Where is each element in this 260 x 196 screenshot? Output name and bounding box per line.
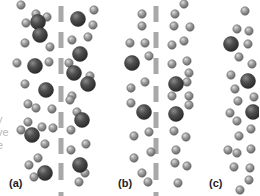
small-particle — [13, 59, 21, 67]
small-particle — [17, 126, 25, 134]
large-particle — [169, 77, 184, 92]
small-particle — [236, 186, 244, 194]
small-particle — [233, 117, 241, 125]
small-particle — [48, 105, 56, 113]
small-particle — [21, 80, 29, 88]
small-particle — [144, 178, 152, 186]
small-particle — [180, 0, 188, 8]
small-particle — [174, 179, 182, 187]
small-particle — [186, 23, 194, 31]
membrane-segment — [154, 58, 159, 74]
small-particle — [227, 71, 235, 79]
small-particle — [24, 100, 32, 108]
small-particle — [245, 176, 253, 184]
small-particle — [49, 124, 57, 132]
small-particle — [248, 60, 256, 68]
clipped-side-text: y ve e — [0, 113, 9, 151]
large-particle — [31, 15, 46, 30]
small-particle — [185, 101, 193, 109]
large-particle — [169, 107, 184, 122]
small-particle — [67, 126, 75, 134]
small-particle — [68, 36, 76, 44]
small-particle — [226, 109, 234, 117]
large-particle — [75, 113, 90, 128]
small-particle — [147, 148, 155, 156]
small-particle — [235, 132, 243, 140]
large-particle — [73, 158, 88, 173]
small-particle — [183, 78, 191, 86]
clipped-text-line-2: ve — [0, 126, 9, 138]
small-particle — [171, 159, 179, 167]
large-particle — [125, 56, 140, 71]
small-particle — [22, 19, 30, 27]
small-particle — [67, 146, 75, 154]
small-particle — [138, 22, 146, 30]
small-particle — [89, 21, 97, 29]
small-particle — [66, 96, 74, 104]
large-particle — [246, 105, 260, 120]
large-particle — [25, 128, 40, 143]
membrane-segment — [59, 86, 64, 102]
large-particle — [38, 166, 53, 181]
small-particle — [17, 1, 25, 9]
small-particle — [46, 43, 54, 51]
particles-layer — [13, 0, 259, 194]
small-particle — [224, 146, 232, 154]
small-particle — [170, 22, 178, 30]
panel-label-a: (a) — [9, 177, 23, 189]
small-particle — [233, 25, 241, 33]
large-particle — [33, 28, 48, 43]
small-particle — [21, 39, 29, 47]
large-particle — [67, 66, 82, 81]
small-particle — [84, 33, 92, 41]
membrane-segment — [154, 6, 159, 22]
panel-label-b: (b) — [118, 177, 132, 189]
membrane-segment — [154, 86, 159, 102]
small-particle — [246, 164, 254, 172]
small-particle — [145, 52, 153, 60]
small-particle — [141, 39, 149, 47]
membrane-segment — [59, 192, 64, 196]
small-particle — [250, 93, 258, 101]
small-particle — [145, 128, 153, 136]
membrane-segment — [154, 112, 159, 128]
membrane-segment — [59, 163, 64, 180]
small-particle — [247, 125, 255, 133]
small-particle — [231, 85, 239, 93]
small-particle — [24, 118, 32, 126]
small-particle — [170, 127, 178, 135]
small-particle — [130, 132, 138, 140]
small-particle — [45, 58, 53, 66]
small-particle — [182, 133, 190, 141]
large-particle — [224, 37, 239, 52]
small-particle — [138, 10, 146, 18]
membrane-segment — [154, 163, 159, 180]
small-particle — [185, 69, 193, 77]
membrane-segment — [154, 32, 159, 48]
small-particle — [247, 145, 255, 153]
panel-label-c: (c) — [209, 177, 223, 189]
small-particle — [141, 78, 149, 86]
membrane-b — [154, 6, 159, 196]
small-particle — [130, 154, 138, 162]
membrane-diagram-figure: y ve e (a) (b) (c) — [0, 0, 259, 196]
large-particle — [71, 12, 86, 27]
small-particle — [233, 149, 241, 157]
small-particle — [244, 40, 252, 48]
large-particle — [28, 59, 43, 74]
small-particle — [168, 92, 176, 100]
small-particle — [75, 178, 83, 186]
small-particle — [235, 53, 243, 61]
membrane-segment — [59, 112, 64, 128]
small-particle — [185, 92, 193, 100]
small-particle — [245, 27, 253, 35]
small-particle — [82, 140, 90, 148]
clipped-text-line-3: e — [0, 139, 3, 151]
small-particle — [38, 123, 46, 131]
small-particle — [32, 104, 40, 112]
small-particle — [34, 154, 42, 162]
small-particle — [127, 84, 135, 92]
large-particle — [241, 74, 256, 89]
small-particle — [41, 140, 49, 148]
small-particle — [183, 162, 191, 170]
